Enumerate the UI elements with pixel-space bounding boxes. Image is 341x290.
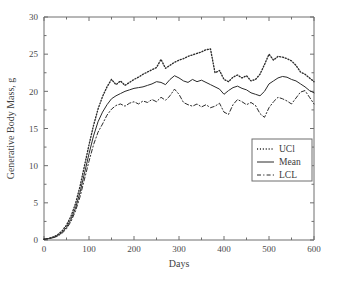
x-tick-label: 0	[42, 244, 47, 254]
x-tick-label: 200	[127, 244, 141, 254]
x-tick-label: 400	[217, 244, 231, 254]
y-tick-label: 25	[29, 49, 39, 59]
chart-axes	[44, 17, 314, 240]
chart-legend: UClMeanLCL	[252, 139, 312, 181]
y-tick-label: 20	[29, 87, 39, 97]
y-tick-label: 5	[34, 198, 39, 208]
x-tick-label: 300	[172, 244, 186, 254]
x-tick-label: 600	[307, 244, 321, 254]
y-tick-label: 10	[29, 161, 39, 171]
line-chart: 0510152025300100200300400500600DaysGener…	[0, 0, 341, 290]
y-tick-label: 15	[29, 124, 39, 134]
chart-figure: 0510152025300100200300400500600DaysGener…	[0, 0, 341, 290]
plot-frame	[44, 17, 314, 240]
x-axis-title: Days	[169, 258, 190, 269]
legend-label-lcl: LCL	[279, 170, 297, 180]
legend-label-mean: Mean	[279, 157, 301, 167]
legend-label-ucl: UCl	[279, 144, 295, 154]
y-tick-label: 30	[29, 12, 39, 22]
x-tick-label: 100	[82, 244, 96, 254]
y-tick-label: 0	[34, 235, 39, 245]
y-axis-title: Generative Body Mass, g	[5, 78, 16, 180]
x-tick-label: 500	[262, 244, 276, 254]
